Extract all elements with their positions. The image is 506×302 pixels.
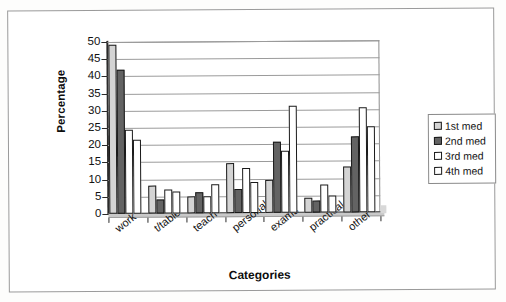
bar[interactable] [157, 200, 165, 214]
bar[interactable] [281, 151, 289, 213]
bar[interactable] [328, 195, 336, 212]
bar[interactable] [242, 168, 250, 213]
y-axis-tick [102, 180, 108, 181]
bar-group [185, 41, 225, 213]
legend-item[interactable]: 1st med [434, 119, 491, 133]
x-axis-tick [225, 217, 226, 222]
bar[interactable] [117, 69, 126, 214]
legend-item-label: 2nd med [445, 135, 486, 146]
bar-group [107, 42, 147, 214]
bar[interactable] [289, 106, 298, 213]
legend-swatch-icon [434, 137, 442, 145]
x-axis-tick [186, 217, 187, 222]
legend-swatch-icon [434, 122, 442, 130]
bar[interactable] [195, 193, 203, 214]
y-axis-tick-label: 10 [75, 174, 101, 186]
x-axis-tick [264, 217, 265, 222]
y-axis-title: Percentage [54, 41, 67, 161]
legend-swatch-icon [434, 167, 442, 175]
x-axis-tick [303, 217, 304, 222]
y-axis-tick-label: 30 [75, 105, 101, 117]
x-axis-tick [147, 218, 148, 223]
bar[interactable] [234, 189, 242, 213]
y-axis-tick-label: 15 [75, 156, 101, 168]
bar[interactable] [350, 137, 358, 213]
legend-item[interactable]: 3rd med [434, 149, 491, 163]
y-axis-tick-label: 25 [75, 122, 101, 134]
y-axis-tick-label: 45 [74, 53, 100, 65]
bar-series-container [107, 40, 379, 42]
bar[interactable] [211, 184, 219, 213]
y-axis-tick [102, 128, 108, 129]
bar[interactable] [226, 163, 234, 213]
legend-swatch-icon [434, 152, 442, 160]
chart-frame: Percentage 05101520253035404550 Categori… [7, 8, 496, 293]
y-axis-tick [102, 162, 108, 163]
bar[interactable] [125, 129, 134, 213]
bar-group [340, 40, 380, 212]
legend-item[interactable]: 2nd med [434, 134, 491, 148]
y-axis-tick [102, 197, 108, 198]
bar[interactable] [165, 189, 173, 213]
y-axis-tick-label: 40 [75, 70, 101, 82]
y-axis-tick-label: 50 [74, 36, 100, 48]
legend-item-label: 3rd med [445, 150, 484, 161]
bar[interactable] [265, 180, 273, 213]
y-axis-tick [102, 214, 108, 215]
y-axis-tick-label: 5 [75, 191, 101, 203]
bar[interactable] [250, 182, 258, 213]
bar-group [146, 41, 186, 213]
x-axis-tick [380, 216, 381, 221]
bar[interactable] [187, 196, 195, 213]
y-axis-tick-label: 35 [75, 88, 101, 100]
plot-floor-corner [380, 205, 386, 213]
legend-item-label: 1st med [445, 120, 482, 131]
bar[interactable] [312, 201, 320, 213]
bar[interactable] [358, 107, 367, 212]
bar-group [302, 40, 342, 212]
bar[interactable] [109, 45, 118, 214]
bar[interactable] [173, 191, 181, 213]
bar[interactable] [133, 140, 141, 214]
legend: 1st med2nd med3rd med4th med [428, 114, 496, 184]
bar[interactable] [304, 197, 312, 213]
bar[interactable] [343, 166, 351, 212]
bar-group [263, 41, 303, 213]
bar-group [224, 41, 264, 213]
x-axis-title: Categories [160, 267, 360, 282]
bar[interactable] [148, 186, 156, 214]
legend-item[interactable]: 4th med [434, 164, 491, 178]
bar[interactable] [366, 126, 375, 212]
bar[interactable] [320, 185, 328, 213]
scanned-page: Percentage 05101520253035404550 Categori… [0, 0, 506, 302]
y-axis-tick [102, 94, 108, 95]
y-axis-tick [102, 111, 108, 112]
y-axis-tick [101, 59, 107, 60]
y-axis-tick-label: 20 [75, 139, 101, 151]
legend-item-label: 4th med [445, 165, 483, 176]
x-axis-tick [108, 218, 109, 223]
y-axis-tick [102, 145, 108, 146]
y-axis-tick [102, 76, 108, 77]
x-axis-tick [342, 216, 343, 221]
y-axis-tick-label: 0 [75, 208, 101, 220]
y-axis-tick [101, 42, 107, 43]
bar[interactable] [203, 196, 211, 213]
y-axis-tick-labels: 05101520253035404550 [70, 11, 102, 302]
bar[interactable] [273, 142, 281, 213]
plot-area [107, 40, 380, 214]
